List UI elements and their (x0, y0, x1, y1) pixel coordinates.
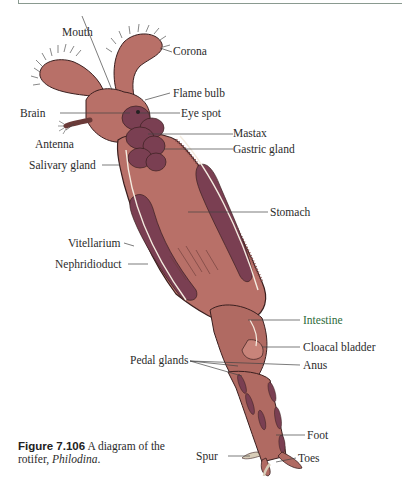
label-intestine: Intestine (303, 314, 343, 327)
label-vitellarium: Vitellarium (68, 237, 120, 250)
label-anus: Anus (303, 359, 327, 372)
label-antenna: Antenna (35, 138, 74, 151)
corona-right-lobe (114, 34, 162, 96)
label-salivary-gland: Salivary gland (29, 159, 96, 172)
label-mouth: Mouth (62, 26, 93, 39)
label-gastric-gland: Gastric gland (233, 143, 295, 156)
label-corona: Corona (173, 45, 207, 58)
label-mastax: Mastax (233, 127, 267, 140)
rotifer-illustration (0, 0, 402, 501)
label-eye-spot: Eye spot (181, 107, 221, 120)
caption-species: Philodina (52, 453, 97, 465)
corona-left-lobe (40, 60, 104, 96)
label-cloacal-bladder: Cloacal bladder (303, 341, 375, 354)
figure-number: Figure 7.106 (18, 440, 85, 452)
caption-end: . (97, 453, 100, 465)
label-stomach: Stomach (270, 206, 310, 219)
label-flame-bulb: Flame bulb (173, 87, 225, 100)
label-toes: Toes (298, 452, 320, 465)
label-foot: Foot (307, 429, 328, 442)
spur (242, 452, 260, 459)
antenna (66, 120, 90, 126)
label-spur: Spur (196, 450, 218, 463)
figure-caption: Figure 7.106 A diagram of the rotifer, P… (18, 440, 178, 466)
eye-spot (136, 110, 140, 114)
mastax-gastric-salivary (122, 106, 166, 171)
label-brain: Brain (20, 107, 46, 120)
label-nephridioduct: Nephridioduct (55, 258, 121, 271)
label-pedal-glands: Pedal glands (130, 354, 188, 367)
